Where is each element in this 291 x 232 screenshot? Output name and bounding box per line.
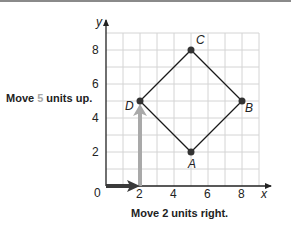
y-tick-2: 2 [92,145,99,159]
x-tick-2: 2 [136,187,143,201]
y-tick-6: 6 [92,77,99,91]
point-c [188,47,195,54]
caption-move-right: Move 2 units right. [131,207,228,219]
y-axis-label: y [95,15,103,29]
y-tick-8: 8 [92,43,99,57]
label-b: B [245,101,253,115]
label-c: C [196,33,205,47]
point-a [188,149,195,156]
label-d: D [125,99,134,113]
label-a: A [187,157,196,171]
x-tick-8: 8 [238,187,245,201]
origin-label: 0 [94,186,101,200]
x-axis-label: x [260,187,268,201]
caption-move-up: Move 5 units up. [6,92,92,104]
caption-up-prefix: Move [6,92,37,104]
x-tick-6: 6 [204,187,211,201]
point-d [137,98,144,105]
y-tick-4: 4 [92,111,99,125]
arrow-up [133,104,147,186]
coordinate-plane: A B C D 8 6 4 2 0 2 4 6 8 x y [0,0,291,232]
x-tick-4: 4 [170,187,177,201]
caption-up-suffix: units up. [43,92,92,104]
